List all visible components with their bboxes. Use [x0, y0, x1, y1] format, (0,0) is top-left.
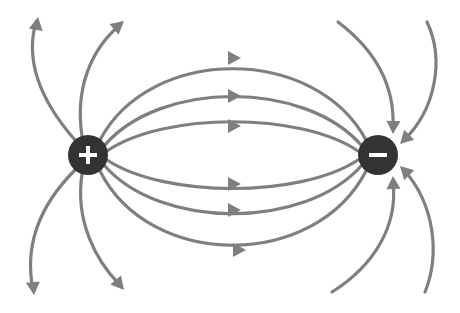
- arrow-right-icon: [228, 89, 241, 103]
- arrow-outward-icon: [29, 16, 45, 31]
- arrow-inward-icon: [386, 176, 400, 189]
- field-line-in-bottom-mid: [332, 182, 394, 292]
- arrow-outward-icon: [26, 281, 41, 295]
- plus-icon: [86, 146, 90, 164]
- positive-charge: Positive charge: [68, 135, 108, 175]
- charges: Positive chargeNegative charge: [68, 135, 398, 175]
- arrow-inward-icon: [386, 121, 400, 134]
- arrow-right-icon: [228, 51, 241, 65]
- connecting-field-lines: [100, 51, 366, 257]
- field-line-out-bottom-left: [30, 170, 75, 290]
- negative-charge: Negative charge: [358, 135, 398, 175]
- electric-field-diagram: Positive chargeNegative charge: [0, 0, 460, 313]
- field-line-out-top-left: [32, 22, 75, 140]
- field-line-in-top-right: [404, 22, 436, 140]
- field-line-in-bottom-right: [404, 170, 433, 292]
- minus-icon: [369, 153, 387, 157]
